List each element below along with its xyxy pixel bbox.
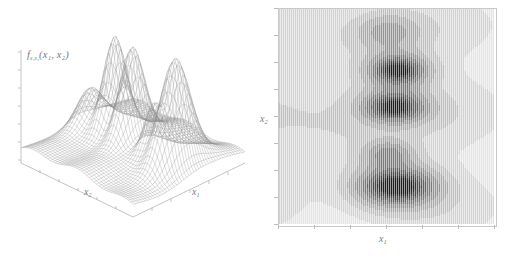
contour-x-tick — [350, 225, 351, 229]
contour-y-tick — [274, 35, 278, 36]
surface-x1-axis-label: x1 — [192, 186, 200, 198]
contour-y-tick — [274, 197, 278, 198]
contour-y-tick — [274, 89, 278, 90]
contour-y-tick — [274, 143, 278, 144]
figure-root: fx₁x₂(x₁, x₂) x2 x1 x2 — [0, 0, 511, 258]
contour-x-tick — [494, 225, 495, 229]
contour-x-axis-label: x1 — [379, 233, 387, 245]
contour-y-tick — [274, 62, 278, 63]
contour-y-tick — [274, 8, 278, 9]
x2-label-subscript: 2 — [264, 118, 267, 125]
contour-x-tick — [278, 225, 279, 229]
x1-label-subscript: 1 — [383, 238, 386, 245]
surface-wireframe-svg — [0, 0, 256, 258]
contour-y-tick — [274, 224, 278, 225]
x1-label-subscript: 1 — [196, 191, 199, 198]
contour-density-svg — [279, 9, 494, 224]
contour-x-tick — [386, 225, 387, 229]
z-label-subscript: x₁x₂ — [30, 55, 39, 61]
surface-plot-panel: fx₁x₂(x₁, x₂) x2 x1 — [0, 0, 256, 258]
surface-z-axis-label: fx₁x₂(x₁, x₂) — [27, 49, 69, 61]
contour-plot-panel: x2 x1 — [256, 0, 511, 258]
z-label-args: (x₁, x₂) — [39, 49, 69, 60]
contour-y-tick — [274, 170, 278, 171]
contour-x-tick — [422, 225, 423, 229]
contour-y-axis-label: x2 — [260, 113, 268, 125]
contour-x-tick — [314, 225, 315, 229]
x2-label-subscript: 2 — [88, 191, 91, 198]
contour-plot-frame — [278, 8, 497, 227]
contour-y-tick — [274, 116, 278, 117]
contour-x-tick — [458, 225, 459, 229]
surface-x2-axis-label: x2 — [84, 186, 92, 198]
